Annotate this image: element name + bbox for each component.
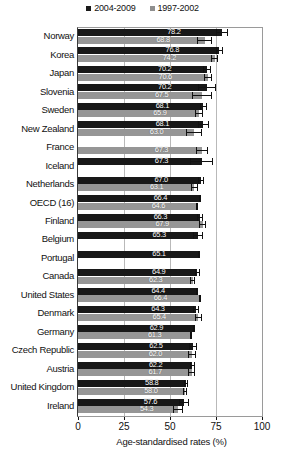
bar-group: 76.874.2 bbox=[78, 46, 262, 64]
bar-series-2004-2009: 67.0 bbox=[78, 177, 201, 184]
error-bar-cap-high bbox=[197, 203, 198, 210]
error-bar bbox=[190, 362, 196, 369]
x-axis-tick bbox=[170, 417, 171, 420]
bar-series-1997-2002: 68.8 bbox=[78, 37, 205, 44]
error-bar-cap-low bbox=[190, 158, 191, 165]
error-bar-cap-high bbox=[208, 121, 209, 128]
bar-value-label: 67.5 bbox=[155, 91, 168, 99]
error-bar-cap-high bbox=[211, 74, 212, 81]
error-bar-cap-low bbox=[179, 399, 180, 406]
bar-series-1997-2002: 70.6 bbox=[78, 74, 208, 81]
error-bar-cap-high bbox=[211, 92, 212, 99]
error-bar-cap-low bbox=[183, 388, 184, 395]
error-bar-cap-high bbox=[199, 251, 200, 258]
error-bar bbox=[190, 332, 192, 339]
bar-value-label: 65.3 bbox=[152, 231, 165, 239]
x-axis-tick-label: 75 bbox=[210, 421, 221, 432]
bar-value-label: 67.9 bbox=[155, 220, 168, 228]
bar-value-label: 65.1 bbox=[152, 250, 165, 258]
error-bar bbox=[190, 277, 195, 284]
error-bar-cap-high bbox=[187, 380, 188, 387]
bar-series-2004-2009: 70.2 bbox=[78, 66, 207, 73]
bar-series-2004-2009: 67.3 bbox=[78, 158, 202, 165]
category-label: Korea bbox=[0, 50, 74, 60]
x-axis-tick bbox=[124, 417, 125, 420]
error-bar-cap-high bbox=[211, 37, 212, 44]
error-bar-cap-high bbox=[207, 147, 208, 154]
category-label: Canada bbox=[0, 271, 74, 281]
bar-series-2004-2009: 64.4 bbox=[78, 288, 196, 295]
error-bar-cap-high bbox=[182, 406, 183, 413]
error-bar bbox=[216, 47, 223, 54]
error-bar bbox=[203, 66, 210, 73]
error-bar bbox=[211, 55, 219, 62]
category-label: United States bbox=[0, 290, 74, 300]
chart-legend: 2004-2009 1997-2002 bbox=[0, 4, 285, 13]
category-label: OECD (16) bbox=[0, 198, 74, 208]
bar-series-2004-2009: 66.4 bbox=[78, 195, 200, 202]
bar-group: 68.163.0 bbox=[78, 120, 262, 138]
error-bar-line bbox=[186, 132, 201, 133]
bar-value-label: 61.7 bbox=[148, 368, 161, 376]
error-bar bbox=[198, 177, 204, 184]
error-bar bbox=[190, 158, 213, 165]
error-bar-cap-high bbox=[194, 362, 195, 369]
bar-series-1997-2002: 67.3 bbox=[78, 147, 202, 154]
bar-value-label: 66.4 bbox=[154, 294, 167, 302]
legend-swatch-icon bbox=[86, 6, 91, 11]
bar-series-1997-2002: 62.0 bbox=[78, 351, 192, 358]
error-bar-cap-low bbox=[186, 129, 187, 136]
error-bar-cap-high bbox=[203, 177, 204, 184]
bar-series-1997-2002: 63.0 bbox=[78, 129, 194, 136]
error-bar-cap-high bbox=[194, 277, 195, 284]
error-bar-cap-low bbox=[198, 84, 199, 91]
error-bar-cap-low bbox=[184, 380, 185, 387]
error-bar-cap-low bbox=[188, 369, 189, 376]
bar-value-label: 64.6 bbox=[152, 202, 165, 210]
error-bar bbox=[192, 92, 212, 99]
error-bar-cap-low bbox=[203, 66, 204, 73]
bar-chart: 2004-2009 1997-2002 NorwayKoreaJapanSlov… bbox=[0, 0, 285, 475]
error-bar bbox=[198, 84, 216, 91]
error-bar-cap-high bbox=[217, 55, 218, 62]
error-bar-cap-low bbox=[198, 177, 199, 184]
legend-label: 2004-2009 bbox=[94, 4, 135, 13]
error-bar bbox=[199, 195, 201, 202]
error-bar-cap-high bbox=[195, 351, 196, 358]
error-bar-cap-high bbox=[210, 66, 211, 73]
legend-entry-1997-2002: 1997-2002 bbox=[150, 4, 199, 13]
bar-series-2004-2009: 58.8 bbox=[78, 380, 186, 387]
bar-series-2004-2009: 78.2 bbox=[78, 29, 222, 36]
category-label: New Zealand bbox=[0, 124, 74, 134]
error-bar-cap-low bbox=[196, 147, 197, 154]
bar-series-2004-2009: 65.3 bbox=[78, 232, 198, 239]
bar-group: 62.261.7 bbox=[78, 361, 262, 379]
bar-group: 66.464.6 bbox=[78, 194, 262, 212]
error-bar bbox=[199, 221, 206, 228]
error-bar bbox=[184, 380, 188, 387]
error-bar bbox=[216, 29, 228, 36]
error-bar-cap-low bbox=[200, 103, 201, 110]
category-label: Sweden bbox=[0, 105, 74, 115]
error-bar-cap-high bbox=[197, 184, 198, 191]
error-bar-cap-high bbox=[186, 388, 187, 395]
error-bar bbox=[179, 399, 189, 406]
error-bar bbox=[196, 288, 198, 295]
x-axis-tick bbox=[262, 417, 263, 420]
error-bar-cap-high bbox=[202, 110, 203, 117]
error-bar bbox=[189, 343, 197, 350]
error-bar-cap-high bbox=[200, 195, 201, 202]
error-bar bbox=[200, 103, 207, 110]
bar-series-1997-2002: 61.7 bbox=[78, 369, 192, 376]
bar-series-1997-2002: 64.6 bbox=[78, 203, 197, 210]
error-bar bbox=[188, 369, 194, 376]
error-bar-cap-high bbox=[196, 343, 197, 350]
error-bar-cap-low bbox=[190, 277, 191, 284]
bar-value-label: 65.4 bbox=[153, 313, 166, 321]
error-bar-cap-low bbox=[193, 306, 194, 313]
error-bar-cap-low bbox=[198, 121, 199, 128]
x-axis-tick-label: 100 bbox=[254, 421, 271, 432]
error-bar-line bbox=[198, 87, 216, 88]
category-label: Austria bbox=[0, 364, 74, 374]
bar-group: 78.268.8 bbox=[78, 28, 262, 46]
